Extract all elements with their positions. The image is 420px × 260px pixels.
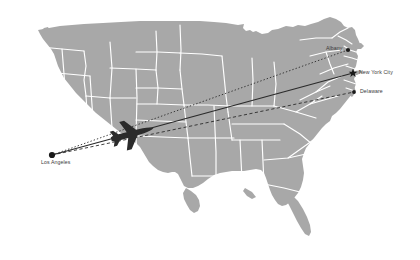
marker-albany bbox=[346, 48, 350, 52]
us-landmass bbox=[38, 17, 364, 236]
city-label-albany: Albany bbox=[326, 46, 343, 51]
city-label-new-york-city: New York City bbox=[359, 70, 393, 75]
city-label-delaware: Delaware bbox=[360, 89, 383, 94]
flight-route-map: Los Angeles Albany New York City Delawar… bbox=[0, 0, 420, 260]
city-label-los-angeles: Los Angeles bbox=[41, 160, 71, 165]
us-map-svg bbox=[0, 0, 420, 260]
marker-los-angeles bbox=[49, 152, 55, 158]
marker-delaware bbox=[352, 90, 356, 94]
